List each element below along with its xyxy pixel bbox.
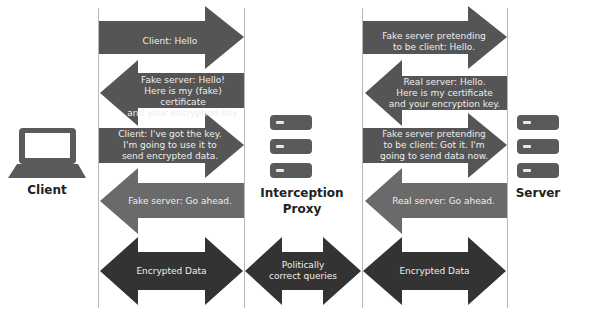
message-label: Fake server pretending to be client: Hel… (365, 31, 503, 53)
server-label: Server (508, 185, 568, 201)
message-label: Client: Hello (100, 36, 240, 47)
message-label: Fake server pretending to be client: Got… (365, 129, 503, 162)
message-label: Real server: Hello. Here is my certifica… (382, 77, 507, 110)
message-label: Encrypted Data (100, 266, 243, 277)
client-label: Client (0, 182, 94, 198)
message-label: Fake server: Go ahead. (116, 196, 244, 207)
client-node: Client (0, 120, 100, 200)
proxy-label: Interception Proxy (252, 185, 352, 217)
message-label: Client: I've got the key. I'm going to u… (100, 129, 240, 162)
laptop-icon (0, 120, 100, 180)
message-label: Real server: Go ahead. (380, 196, 507, 207)
message-label: Encrypted Data (363, 266, 506, 277)
message-label: Politically correct queries (255, 260, 351, 282)
message-label: Fake server: Hello! Here is my (fake) ce… (122, 75, 244, 119)
